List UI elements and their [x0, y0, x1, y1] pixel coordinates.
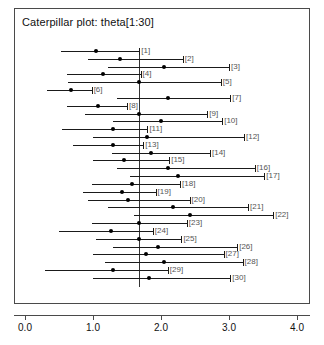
interval-label: [30] — [232, 273, 245, 283]
interval-end-tick — [248, 204, 249, 211]
interval-label: [27] — [226, 249, 239, 259]
point-estimate-marker — [118, 57, 122, 61]
credible-interval-line — [85, 114, 207, 115]
point-estimate-marker — [159, 119, 163, 123]
interval-row: [26] — [14, 244, 310, 252]
interval-row: [12] — [14, 134, 310, 142]
point-estimate-marker — [137, 112, 141, 116]
interval-label: [13] — [145, 140, 158, 150]
interval-row: [30] — [14, 275, 310, 283]
interval-row: [13] — [14, 142, 310, 150]
interval-end-tick — [229, 64, 230, 71]
point-estimate-marker — [137, 221, 141, 225]
interval-label: [18] — [182, 179, 195, 189]
point-estimate-marker — [156, 245, 160, 249]
point-estimate-marker — [126, 198, 130, 202]
point-estimate-marker — [166, 96, 170, 100]
interval-label: [10] — [224, 116, 237, 126]
credible-interval-line — [73, 145, 144, 146]
interval-row: [4] — [14, 71, 310, 79]
interval-label: [19] — [158, 187, 171, 197]
caterpillar-plot-figure: Caterpillar plot: theta[1:30] [1][2][3][… — [0, 0, 324, 345]
interval-end-tick — [168, 267, 169, 274]
interval-row: [11] — [14, 126, 310, 134]
interval-label: [28] — [245, 257, 258, 267]
interval-label: [11] — [149, 124, 162, 134]
interval-label: [21] — [250, 202, 263, 212]
credible-interval-line — [93, 254, 224, 255]
credible-interval-line — [108, 67, 229, 68]
interval-label: [20] — [192, 195, 205, 205]
credible-interval-line — [88, 200, 190, 201]
x-axis-tick — [297, 315, 298, 320]
interval-row: [24] — [14, 228, 310, 236]
interval-end-tick — [180, 181, 181, 188]
point-estimate-marker — [111, 268, 115, 272]
credible-interval-line — [93, 278, 230, 279]
interval-end-tick — [153, 228, 154, 235]
credible-interval-line — [113, 247, 237, 248]
interval-end-tick — [224, 251, 225, 258]
point-estimate-marker — [111, 127, 115, 131]
interval-end-tick — [244, 134, 245, 141]
x-axis-tick — [93, 315, 94, 320]
interval-end-tick — [230, 95, 231, 102]
interval-label: [26] — [239, 242, 252, 252]
point-estimate-marker — [176, 174, 180, 178]
interval-label: [24] — [155, 226, 168, 236]
interval-end-tick — [169, 157, 170, 164]
x-axis-tick-label: 1.0 — [86, 322, 100, 333]
credible-interval-line — [113, 121, 222, 122]
credible-interval-line — [93, 137, 244, 138]
point-estimate-marker — [147, 276, 151, 280]
point-estimate-marker — [162, 260, 166, 264]
x-axis-tick — [25, 315, 26, 320]
point-estimate-marker — [144, 252, 148, 256]
interval-end-tick — [221, 79, 222, 86]
interval-end-tick — [264, 173, 265, 180]
x-axis-tick — [161, 315, 162, 320]
point-estimate-marker — [101, 72, 105, 76]
interval-end-tick — [147, 126, 148, 133]
interval-end-tick — [143, 142, 144, 149]
interval-end-tick — [141, 71, 142, 78]
interval-row: [9] — [14, 111, 310, 119]
credible-interval-line — [88, 59, 183, 60]
credible-interval-line — [130, 176, 264, 177]
interval-label: [2] — [185, 54, 194, 64]
interval-end-tick — [243, 259, 244, 266]
x-axis-tick — [229, 315, 230, 320]
point-estimate-marker — [166, 166, 170, 170]
interval-end-tick — [92, 87, 93, 94]
interval-label: [5] — [223, 77, 232, 87]
credible-interval-line — [112, 153, 210, 154]
interval-row: [28] — [14, 259, 310, 267]
credible-interval-line — [68, 82, 221, 83]
interval-end-tick — [222, 118, 223, 125]
interval-row: [20] — [14, 197, 310, 205]
interval-label: [8] — [129, 101, 138, 111]
interval-label: [3] — [231, 62, 240, 72]
credible-interval-line — [117, 98, 231, 99]
interval-label: [15] — [171, 155, 184, 165]
x-axis-tick-label: 2.0 — [154, 322, 168, 333]
interval-row: [17] — [14, 173, 310, 181]
interval-row: [3] — [14, 64, 310, 72]
interval-label: [25] — [183, 234, 196, 244]
credible-interval-line — [134, 215, 273, 216]
credible-interval-line — [108, 207, 248, 208]
credible-interval-line — [45, 270, 167, 271]
interval-end-tick — [183, 56, 184, 63]
interval-end-tick — [187, 220, 188, 227]
plot-area: [1][2][3][4][5][6][7][8][9][10][11][12][… — [14, 8, 310, 304]
point-estimate-marker — [109, 229, 113, 233]
interval-row: [29] — [14, 267, 310, 275]
point-estimate-marker — [171, 205, 175, 209]
point-estimate-marker — [120, 190, 124, 194]
credible-interval-line — [59, 231, 153, 232]
point-estimate-marker — [188, 213, 192, 217]
point-estimate-marker — [145, 135, 149, 139]
credible-interval-line — [61, 51, 139, 52]
point-estimate-marker — [137, 80, 141, 84]
point-estimate-marker — [162, 65, 166, 69]
